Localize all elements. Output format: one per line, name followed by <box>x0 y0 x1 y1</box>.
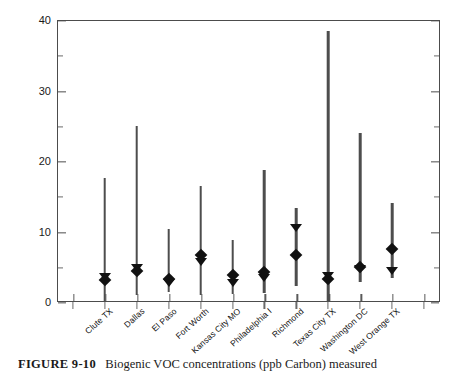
y-tick-minor-right <box>434 267 439 268</box>
y-tick-minor-right <box>434 126 439 127</box>
y-tick-major <box>58 302 66 303</box>
x-tick <box>392 294 393 301</box>
caption-label: FIGURE 9-10 <box>18 357 96 371</box>
y-tick-label: 40 <box>21 14 51 26</box>
x-tick-outer <box>72 302 73 309</box>
y-tick-label: 20 <box>21 155 51 167</box>
x-tick <box>361 294 362 301</box>
marker-triangle <box>290 224 302 232</box>
y-tick-major <box>58 20 66 21</box>
x-tick <box>169 294 170 301</box>
x-axis-label: Dallas <box>122 306 147 330</box>
x-tick <box>297 294 298 301</box>
y-tick-label: 10 <box>21 226 51 238</box>
y-tick-minor-right <box>434 56 439 57</box>
y-tick-minor <box>58 197 63 198</box>
y-tick-minor <box>58 56 63 57</box>
y-tick-major-right <box>431 302 439 303</box>
range-bar <box>359 133 362 282</box>
y-tick-major <box>58 91 66 92</box>
y-tick-major-right <box>431 91 439 92</box>
x-tick <box>233 294 234 301</box>
figure-caption: FIGURE 9-10 Biogenic VOC concentrations … <box>18 357 448 372</box>
y-tick-major-right <box>431 232 439 233</box>
x-tick <box>73 294 74 301</box>
x-tick <box>201 294 202 301</box>
y-tick-label: 0 <box>21 296 51 308</box>
x-axis-label: El Paso <box>149 306 178 334</box>
chart-plot-area <box>57 20 440 302</box>
range-bar <box>327 31 330 302</box>
y-tick-major <box>58 161 66 162</box>
x-tick <box>424 294 425 301</box>
caption-text: Biogenic VOC concentrations (ppb Carbon)… <box>105 357 377 371</box>
x-tick-outer <box>423 302 424 309</box>
x-tick <box>265 294 266 301</box>
y-tick-label: 30 <box>21 85 51 97</box>
marker-triangle <box>386 267 398 275</box>
range-bar <box>199 186 202 295</box>
y-tick-major <box>58 232 66 233</box>
x-tick <box>137 294 138 301</box>
y-tick-major-right <box>431 161 439 162</box>
y-tick-minor <box>58 126 63 127</box>
x-axis-label: Clute TX <box>83 306 115 336</box>
figure-container: ppb Carbon 010203040 Clute TXDallasEl Pa… <box>0 0 456 378</box>
y-tick-minor <box>58 267 63 268</box>
y-tick-major-right <box>431 20 439 21</box>
y-tick-minor-right <box>434 197 439 198</box>
